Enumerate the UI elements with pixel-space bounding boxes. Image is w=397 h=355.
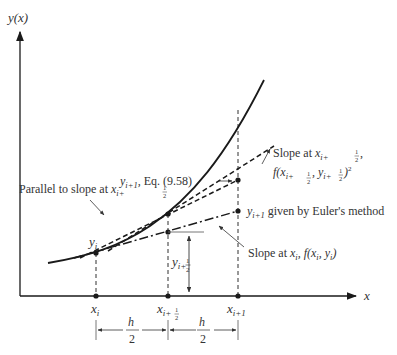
- svg-text:f(xi+: f(xi+: [273, 165, 294, 181]
- point-yi: [93, 250, 98, 255]
- svg-text:2: 2: [175, 314, 178, 321]
- vertical-guides: [96, 110, 238, 296]
- two-label-right: 2: [200, 332, 206, 346]
- h-label-right: h: [199, 315, 205, 329]
- x-axis-label: x: [363, 288, 370, 303]
- svg-text:Slope at xi+: Slope at xi+: [273, 146, 328, 162]
- svg-text:1: 1: [339, 167, 342, 174]
- y-half-marker: yi+ 1 2: [168, 232, 204, 292]
- eq958-annotation: yi+1, Eq. (9.58): [119, 174, 232, 190]
- svg-text:, yi+: , yi+: [312, 165, 331, 181]
- euler-slope-line: [74, 211, 238, 258]
- h-half-dimensions: h 2 h 2: [96, 315, 238, 346]
- h-label-left: h: [128, 315, 134, 329]
- svg-text:1: 1: [355, 148, 358, 155]
- svg-text:2: 2: [186, 266, 190, 274]
- svg-text:2: 2: [163, 192, 166, 199]
- euler-midpoint-diagram: y(x) x yi+ 1 2 yi: [0, 0, 397, 355]
- tick-label-xi: xi: [90, 301, 100, 318]
- tick-label-x-half: xi+: [156, 301, 171, 318]
- svg-text:yi+1, Eq. (9.58): yi+1, Eq. (9.58): [119, 174, 192, 190]
- true-solution-curve: [48, 80, 264, 263]
- midpoint-slope-annotation: Slope at xi+ 1 2 , f(xi+ 1 2 , yi+ 1 2 )…: [262, 146, 363, 185]
- slope-i-annotation: Slope at xi, f(xi, yi): [219, 226, 336, 262]
- svg-text:Slope at xi, f(xi, yi): Slope at xi, f(xi, yi): [248, 246, 336, 262]
- svg-text:1: 1: [307, 170, 310, 177]
- yi-label: yi: [87, 234, 98, 251]
- svg-text:1: 1: [186, 257, 190, 265]
- x-tick-labels: xi xi+ 1 2 xi+1: [90, 301, 246, 321]
- midpoint-slope-line: [108, 146, 274, 251]
- svg-text:1: 1: [175, 306, 178, 313]
- tick-label-x-next: xi+1: [226, 301, 246, 318]
- tick-xi: [93, 293, 98, 298]
- point-eq958: [235, 177, 240, 182]
- point-euler-next: [235, 208, 240, 213]
- svg-text:2: 2: [355, 156, 358, 163]
- svg-text:2: 2: [339, 175, 342, 182]
- euler-annotation: yi+1 given by Euler's method: [246, 204, 384, 220]
- svg-text:2: 2: [348, 165, 352, 173]
- svg-text:2: 2: [307, 178, 310, 185]
- tick-x-next: [235, 293, 240, 298]
- point-curve-half: [165, 211, 170, 216]
- svg-text:,: ,: [360, 146, 363, 160]
- y-axis-label: y(x): [6, 10, 28, 25]
- svg-text:Parallel to slope at xi+: Parallel to slope at xi+: [19, 182, 124, 198]
- y-half-label: yi+: [170, 254, 186, 271]
- tick-x-half: [165, 293, 170, 298]
- two-label-left: 2: [129, 332, 135, 346]
- svg-text:1: 1: [163, 184, 166, 191]
